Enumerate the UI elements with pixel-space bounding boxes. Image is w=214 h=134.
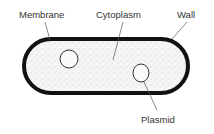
wall-label: Wall bbox=[177, 9, 195, 20]
plasmid-left bbox=[60, 50, 78, 68]
cell-wall bbox=[24, 39, 188, 93]
wall-leader bbox=[172, 22, 187, 39]
membrane-label: Membrane bbox=[19, 9, 64, 20]
plasmid-label: Plasmid bbox=[141, 114, 175, 125]
plasmid-right bbox=[133, 64, 149, 82]
cytoplasm-label: Cytoplasm bbox=[96, 9, 141, 20]
bacterial-cell-diagram: Membrane Cytoplasm Wall Plasmid bbox=[0, 0, 214, 134]
